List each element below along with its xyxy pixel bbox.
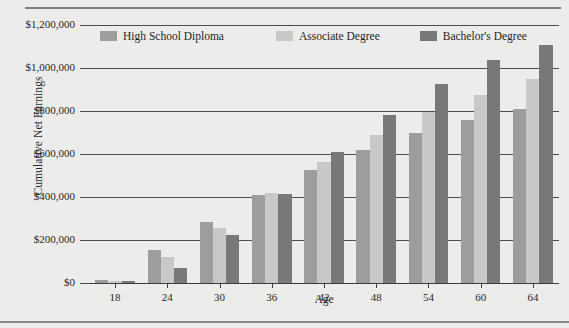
x-tick-mark [220,283,221,288]
y-tick-label: $400,000 [0,190,75,202]
x-tick-mark [272,283,273,288]
bar-54-series-0 [409,133,422,284]
y-tick-label: $200,000 [0,233,75,245]
bar-48-series-1 [370,135,383,283]
bar-24-series-1 [161,257,174,283]
y-tick-label: $0 [0,276,75,288]
x-tick-mark [324,283,325,288]
x-tick-mark [428,283,429,288]
x-axis-title: Age [89,293,559,305]
y-tick-mark [80,197,89,198]
bar-30-series-1 [213,228,226,283]
y-tick-mark [80,283,89,284]
bar-36-series-0 [252,195,265,283]
bar-24-series-0 [148,250,161,283]
x-tick-mark [376,283,377,288]
x-tick-mark [167,283,168,288]
bar-24-series-2 [174,268,187,283]
bar-64-series-0 [513,109,526,283]
y-tick-label: $1,000,000 [0,61,75,73]
bar-48-series-0 [356,150,369,283]
y-tick-label: $1,200,000 [0,18,75,30]
bar-60-series-2 [487,60,500,283]
bar-18-series-0 [95,280,108,283]
bar-18-series-2 [122,281,135,283]
y-gridline [89,25,559,26]
bar-42-series-0 [304,170,317,283]
bar-64-series-1 [526,79,539,283]
chart-figure: Cumulative Net Earnings High School Dipl… [0,0,569,328]
y-tick-label: $600,000 [0,147,75,159]
bar-64-series-2 [539,45,552,283]
bar-30-series-2 [226,235,239,283]
y-tick-mark [80,240,89,241]
x-tick-mark [115,283,116,288]
x-tick-mark [533,283,534,288]
x-tick-mark [481,283,482,288]
y-tick-mark [80,111,89,112]
top-divider-rule [25,7,561,9]
bottom-divider-rule [0,321,569,323]
y-tick-label: $800,000 [0,104,75,116]
bar-42-series-1 [317,162,330,283]
bar-54-series-1 [422,112,435,283]
bar-36-series-2 [278,194,291,283]
bar-48-series-2 [383,115,396,283]
plot-area: $0$200,000$400,000$600,000$800,000$1,000… [89,25,559,283]
y-tick-mark [80,25,89,26]
bar-54-series-2 [435,84,448,283]
bar-30-series-0 [200,222,213,283]
bar-60-series-0 [461,120,474,283]
y-tick-mark [80,154,89,155]
y-tick-mark [80,68,89,69]
bar-36-series-1 [265,193,278,283]
bar-60-series-1 [474,95,487,283]
bar-42-series-2 [331,152,344,283]
